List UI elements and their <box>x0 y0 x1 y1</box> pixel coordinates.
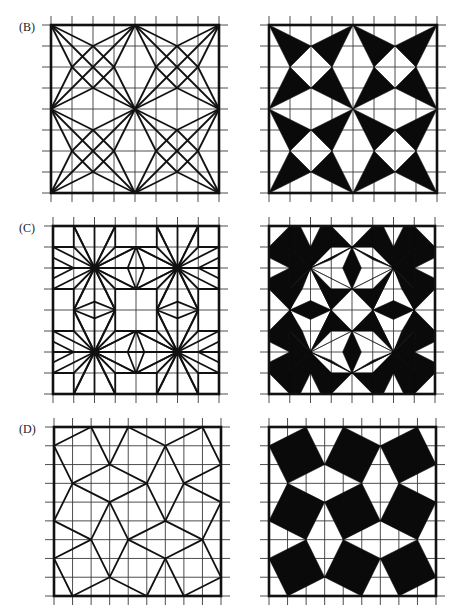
panel-d-filled <box>269 427 436 596</box>
panel-b-filled <box>269 25 437 193</box>
grid-lines <box>45 418 230 605</box>
panel-c-filled <box>269 226 435 394</box>
panel-c-lines <box>53 226 219 394</box>
label-row-d: (D) <box>19 422 36 437</box>
filled-shapes <box>269 427 436 596</box>
label-row-b: (B) <box>19 20 35 35</box>
square-frame <box>54 427 221 596</box>
panel-d-lines <box>54 427 221 596</box>
panel-b-lines <box>51 25 219 193</box>
grid-lines <box>44 217 228 403</box>
construction-outlines <box>54 427 221 596</box>
label-row-c: (C) <box>19 221 35 236</box>
